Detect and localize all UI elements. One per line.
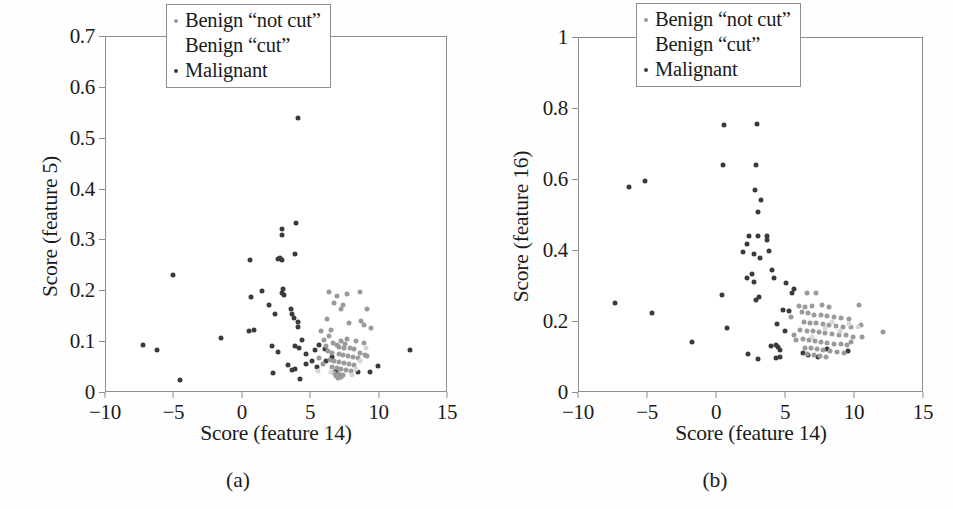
- data-point-malignant: [759, 197, 764, 202]
- data-point-malignant: [745, 276, 750, 281]
- data-point-malignant: [749, 272, 754, 277]
- data-point-notcut: [819, 339, 824, 344]
- data-point-notcut: [814, 291, 819, 296]
- data-point-notcut: [324, 316, 329, 321]
- legend-b: Benign “not cut” Benign “cut” Malignant: [636, 3, 801, 87]
- data-point-malignant: [270, 344, 275, 349]
- data-point-notcut: [346, 321, 351, 326]
- data-point-malignant: [770, 267, 775, 272]
- x-tick: [785, 392, 786, 398]
- subcaption-a: (a): [0, 468, 476, 493]
- legend-label-cut: Benign “cut”: [655, 32, 760, 57]
- data-point-malignant: [720, 163, 725, 168]
- x-tick: [854, 392, 855, 398]
- data-point-malignant: [313, 347, 318, 352]
- data-point-malignant: [724, 325, 729, 330]
- y-axis-label-b: Score (feature 16): [509, 117, 534, 337]
- data-point-malignant: [777, 355, 782, 360]
- data-point-malignant: [299, 338, 304, 343]
- data-point-notcut: [828, 349, 833, 354]
- data-point-malignant: [270, 371, 275, 376]
- data-point-notcut: [859, 335, 864, 340]
- data-point-cut: [353, 366, 358, 371]
- data-point-malignant: [298, 377, 303, 382]
- x-tick-label: 15: [913, 400, 933, 425]
- data-point-malignant: [778, 348, 783, 353]
- data-point-malignant: [303, 351, 308, 356]
- data-point-malignant: [154, 347, 159, 352]
- data-point-malignant: [259, 288, 264, 293]
- data-point-notcut: [824, 354, 829, 359]
- y-tick: [99, 392, 105, 393]
- data-point-notcut: [806, 311, 811, 316]
- subcaption-b: (b): [477, 468, 953, 493]
- data-point-notcut: [805, 352, 810, 357]
- data-point-cut: [847, 321, 852, 326]
- x-tick-label: 15: [437, 400, 457, 425]
- data-point-malignant: [296, 325, 301, 330]
- legend-item-malignant-b: Malignant: [642, 57, 791, 82]
- legend-marker-cut-icon: [642, 32, 652, 57]
- data-point-cut: [316, 368, 321, 373]
- data-point-malignant: [275, 349, 280, 354]
- data-point-malignant: [650, 311, 655, 316]
- data-point-malignant: [757, 255, 762, 260]
- x-tick-label: 10: [844, 400, 864, 425]
- data-point-malignant: [626, 185, 631, 190]
- data-point-malignant: [721, 122, 726, 127]
- y-tick: [99, 239, 105, 240]
- data-point-notcut: [788, 314, 793, 319]
- y-tick-label: 0: [29, 380, 95, 405]
- y-tick: [572, 108, 578, 109]
- data-point-notcut: [826, 305, 831, 310]
- data-point-cut: [829, 319, 834, 324]
- x-tick: [716, 392, 717, 398]
- data-point-malignant: [294, 220, 299, 225]
- data-point-notcut: [319, 329, 324, 334]
- data-point-malignant: [246, 328, 251, 333]
- data-point-cut: [837, 328, 842, 333]
- y-tick-label: 0: [502, 380, 568, 405]
- data-point-malignant: [290, 312, 295, 317]
- y-tick: [572, 179, 578, 180]
- panel-a: −10−505101500.10.20.30.40.50.60.7 Score …: [0, 0, 476, 509]
- data-point-malignant: [755, 122, 760, 127]
- data-point-malignant: [741, 250, 746, 255]
- data-point-notcut: [817, 330, 822, 335]
- data-point-notcut: [344, 292, 349, 297]
- legend-item-notcut-b: Benign “not cut”: [642, 7, 791, 32]
- x-tick-label: −5: [163, 400, 185, 425]
- data-point-notcut: [344, 337, 349, 342]
- legend-a: Benign “not cut” Benign “cut” Malignant: [166, 4, 331, 88]
- x-tick: [378, 392, 379, 398]
- data-point-notcut: [839, 342, 844, 347]
- data-point-notcut: [821, 348, 826, 353]
- data-point-malignant: [612, 301, 617, 306]
- data-point-malignant: [766, 248, 771, 253]
- data-point-notcut: [801, 319, 806, 324]
- data-point-cut: [855, 324, 860, 329]
- data-point-malignant: [775, 322, 780, 327]
- x-tick-label: −5: [636, 400, 658, 425]
- y-tick-label: 0.7: [29, 24, 95, 49]
- legend-item-cut-b: Benign “cut”: [642, 32, 791, 57]
- data-point-notcut: [809, 304, 814, 309]
- data-point-malignant: [296, 345, 301, 350]
- data-point-malignant: [266, 303, 271, 308]
- data-point-malignant: [765, 238, 770, 243]
- x-tick: [447, 392, 448, 398]
- data-point-notcut: [351, 347, 356, 352]
- y-tick: [572, 37, 578, 38]
- legend-marker-notcut-icon: [642, 7, 652, 32]
- legend-label-notcut: Benign “not cut”: [185, 8, 321, 33]
- data-point-notcut: [800, 337, 805, 342]
- data-point-cut: [358, 358, 363, 363]
- data-point-notcut: [326, 289, 331, 294]
- data-point-notcut: [322, 337, 327, 342]
- data-point-notcut: [830, 332, 835, 337]
- y-tick: [99, 138, 105, 139]
- y-tick: [99, 36, 105, 37]
- y-tick: [99, 189, 105, 190]
- plot-frame-a: [105, 36, 447, 392]
- data-point-cut: [363, 345, 368, 350]
